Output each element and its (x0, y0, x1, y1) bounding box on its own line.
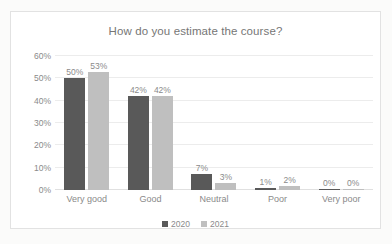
bar-group: 0%0% (309, 56, 373, 190)
bar-group: 50%53% (55, 56, 119, 190)
bar[interactable]: 42% (152, 96, 173, 190)
legend-item[interactable]: 2020 (162, 219, 190, 229)
bars-layer: 50%53%42%42%7%3%1%2%0%0% (55, 56, 373, 190)
bar-group: 1%2% (246, 56, 310, 190)
bar[interactable]: 53% (88, 72, 109, 190)
y-tick-label: 0% (39, 185, 51, 195)
bar-value-label: 42% (154, 85, 171, 95)
bar-value-label: 1% (259, 177, 271, 187)
bar-group: 42%42% (119, 56, 183, 190)
bar-value-label: 7% (196, 163, 208, 173)
y-tick-label: 60% (34, 51, 51, 61)
bar[interactable]: 0% (343, 189, 364, 190)
legend-item[interactable]: 2021 (201, 219, 229, 229)
legend-swatch-icon (201, 221, 207, 227)
bar[interactable]: 50% (64, 78, 85, 190)
bar-value-label: 2% (283, 175, 295, 185)
x-tick-label: Very good (67, 194, 108, 204)
bar-value-label: 53% (90, 61, 107, 71)
legend-swatch-icon (162, 221, 168, 227)
chart-screenshot: How do you estimate the course? 0%10%20%… (0, 0, 392, 244)
bar[interactable]: 1% (255, 188, 276, 190)
y-tick-label: 40% (34, 96, 51, 106)
x-axis: Very goodGoodNeutralPoorVery poor (55, 194, 373, 208)
chart-legend: 20202021 (11, 219, 380, 229)
y-tick-label: 20% (34, 140, 51, 150)
x-tick-label: Neutral (199, 194, 228, 204)
bar[interactable]: 3% (215, 183, 236, 190)
y-tick-label: 10% (34, 163, 51, 173)
bar-group: 7%3% (182, 56, 246, 190)
x-tick-label: Very poor (322, 194, 361, 204)
y-tick-label: 50% (34, 73, 51, 83)
bar[interactable]: 42% (128, 96, 149, 190)
bar-value-label: 0% (347, 178, 359, 188)
bar[interactable]: 0% (319, 189, 340, 190)
bar[interactable]: 7% (191, 174, 212, 190)
bar-value-label: 50% (66, 67, 83, 77)
x-tick-label: Poor (268, 194, 287, 204)
y-axis: 0%10%20%30%40%50%60% (19, 56, 51, 190)
bar-value-label: 0% (323, 178, 335, 188)
bar-value-label: 3% (220, 172, 232, 182)
chart-title: How do you estimate the course? (11, 25, 380, 37)
legend-label: 2020 (171, 219, 190, 229)
y-tick-label: 30% (34, 118, 51, 128)
chart-frame: How do you estimate the course? 0%10%20%… (10, 11, 381, 229)
legend-label: 2021 (210, 219, 229, 229)
bar-value-label: 42% (130, 85, 147, 95)
x-tick-label: Good (139, 194, 161, 204)
bar[interactable]: 2% (279, 186, 300, 190)
